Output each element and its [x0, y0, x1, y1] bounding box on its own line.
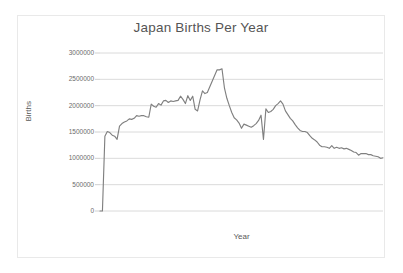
- gridlines: [100, 53, 383, 211]
- axis-ticks: [95, 53, 100, 211]
- births-line-series: [100, 69, 383, 211]
- chart-figure: Japan Births Per Year Births Year 300000…: [0, 0, 403, 273]
- plot-area: [0, 0, 403, 273]
